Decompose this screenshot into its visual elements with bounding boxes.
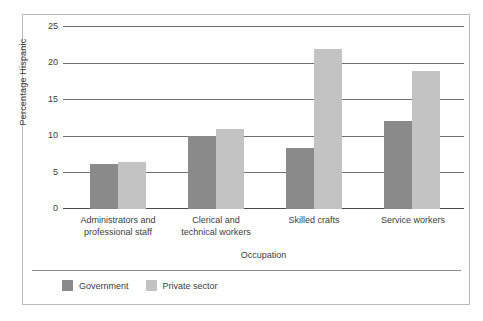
legend-label: Private sector — [163, 281, 218, 291]
bar-government-clerical — [188, 136, 216, 209]
bar-private-skilled-crafts — [314, 49, 342, 209]
plot-area — [63, 26, 464, 209]
x-category-line: Clerical and — [160, 214, 272, 226]
bar-private-clerical — [216, 129, 244, 209]
gridline-20 — [63, 63, 464, 64]
bar-government-administrators — [90, 164, 118, 209]
legend-divider — [32, 270, 461, 271]
y-tick-label: 5 — [24, 168, 58, 177]
y-tick-label: 15 — [24, 95, 58, 104]
x-category-line: Service workers — [360, 214, 466, 226]
chart-figure: 25 20 15 10 5 0 Percentage Hispanic Admi… — [0, 0, 483, 321]
x-axis-title: Occupation — [63, 250, 464, 260]
x-category-line: technical workers — [160, 226, 272, 238]
x-axis-category-labels: Administrators and professional staff Cl… — [63, 214, 464, 248]
x-category-service-workers: Service workers — [360, 214, 466, 226]
legend-label: Government — [79, 281, 129, 291]
bar-private-administrators — [118, 162, 146, 209]
y-tick-label: 10 — [24, 131, 58, 140]
x-category-clerical: Clerical and technical workers — [160, 214, 272, 238]
gridline-15 — [63, 99, 464, 100]
x-category-line: Skilled crafts — [261, 214, 367, 226]
bar-private-service-workers — [412, 71, 440, 209]
legend-item-government: Government — [62, 280, 129, 291]
government-swatch-icon — [62, 280, 73, 291]
legend-item-private-sector: Private sector — [146, 280, 218, 291]
bar-government-skilled-crafts — [286, 148, 314, 210]
private-sector-swatch-icon — [146, 280, 157, 291]
gridline-25 — [63, 26, 464, 27]
bar-government-service-workers — [384, 121, 412, 209]
y-tick-label: 0 — [24, 204, 58, 213]
y-axis-title: Percentage Hispanic — [18, 22, 28, 142]
chart-legend: Government Private sector — [62, 280, 218, 291]
x-category-skilled-crafts: Skilled crafts — [261, 214, 367, 226]
y-tick-label: 20 — [24, 58, 58, 67]
y-tick-label: 25 — [24, 22, 58, 31]
